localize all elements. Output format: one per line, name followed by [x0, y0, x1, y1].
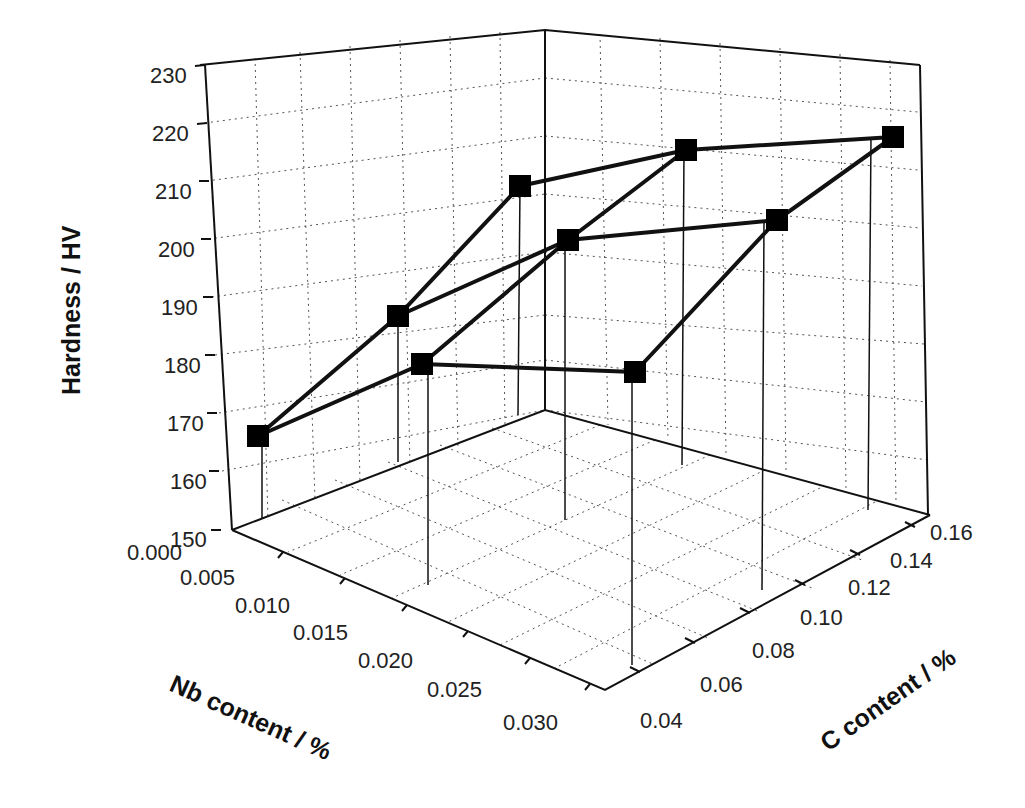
nb-axis-title: Nb content / %: [166, 669, 336, 765]
point-marker: [624, 361, 646, 383]
point-marker: [247, 425, 269, 447]
c-axis-title: C content / %: [815, 642, 961, 756]
3d-hardness-chart: 230 220 210 200 190 180 170 160 150 0.00…: [0, 0, 1025, 808]
point-marker: [882, 126, 904, 148]
z-tick-200: 200: [158, 237, 195, 262]
nb-tick-0.000: 0.000: [127, 540, 182, 565]
point-marker: [411, 353, 433, 375]
data-lines: [258, 137, 893, 436]
point-marker: [387, 305, 409, 327]
nb-tick-0.030: 0.030: [503, 710, 558, 735]
z-tick-190: 190: [161, 295, 198, 320]
point-marker: [509, 175, 531, 197]
c-tick-0.16: 0.16: [930, 520, 973, 545]
c-axis-ticks: 0.04 0.06 0.08 0.10 0.12 0.14 0.16: [630, 520, 973, 733]
c-tick-0.06: 0.06: [700, 672, 743, 697]
c-tick-0.14: 0.14: [890, 548, 933, 573]
z-axis-title: Hardness / HV: [57, 225, 85, 395]
z-tick-220: 220: [152, 121, 189, 146]
z-tick-170: 170: [167, 411, 204, 436]
z-tick-180: 180: [164, 353, 201, 378]
c-tick-0.08: 0.08: [752, 638, 795, 663]
z-axis-ticks: 230 220 210 200 190 180 170 160 150: [150, 63, 221, 552]
z-tick-230: 230: [150, 63, 187, 88]
nb-tick-0.005: 0.005: [180, 565, 235, 590]
point-marker: [557, 229, 579, 251]
floor-grid: [282, 425, 875, 668]
c-tick-0.04: 0.04: [640, 708, 683, 733]
point-marker: [675, 139, 697, 161]
c-tick-0.12: 0.12: [848, 575, 891, 600]
z-tick-160: 160: [170, 469, 207, 494]
nb-tick-0.025: 0.025: [427, 677, 482, 702]
point-marker: [766, 209, 788, 231]
c-tick-0.10: 0.10: [800, 605, 843, 630]
nb-tick-0.020: 0.020: [358, 648, 413, 673]
nb-tick-0.015: 0.015: [293, 620, 348, 645]
z-tick-210: 210: [155, 179, 192, 204]
nb-tick-0.010: 0.010: [235, 593, 290, 618]
